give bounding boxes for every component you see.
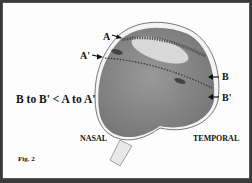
label-a: A — [103, 31, 110, 42]
label-nasal: NASAL — [80, 134, 107, 143]
label-a-prime: A' — [80, 50, 90, 61]
comparison-equation: B to B' < A to A' — [16, 93, 95, 105]
arrow-a-prime-icon — [92, 54, 103, 60]
label-b-prime: B' — [222, 92, 231, 103]
figure-caption: Fig. 2 — [18, 155, 35, 163]
eye-cross-section-diagram — [0, 0, 252, 183]
label-b: B — [222, 71, 229, 82]
optic-nerve — [110, 140, 132, 166]
label-temporal: TEMPORAL — [193, 134, 239, 143]
